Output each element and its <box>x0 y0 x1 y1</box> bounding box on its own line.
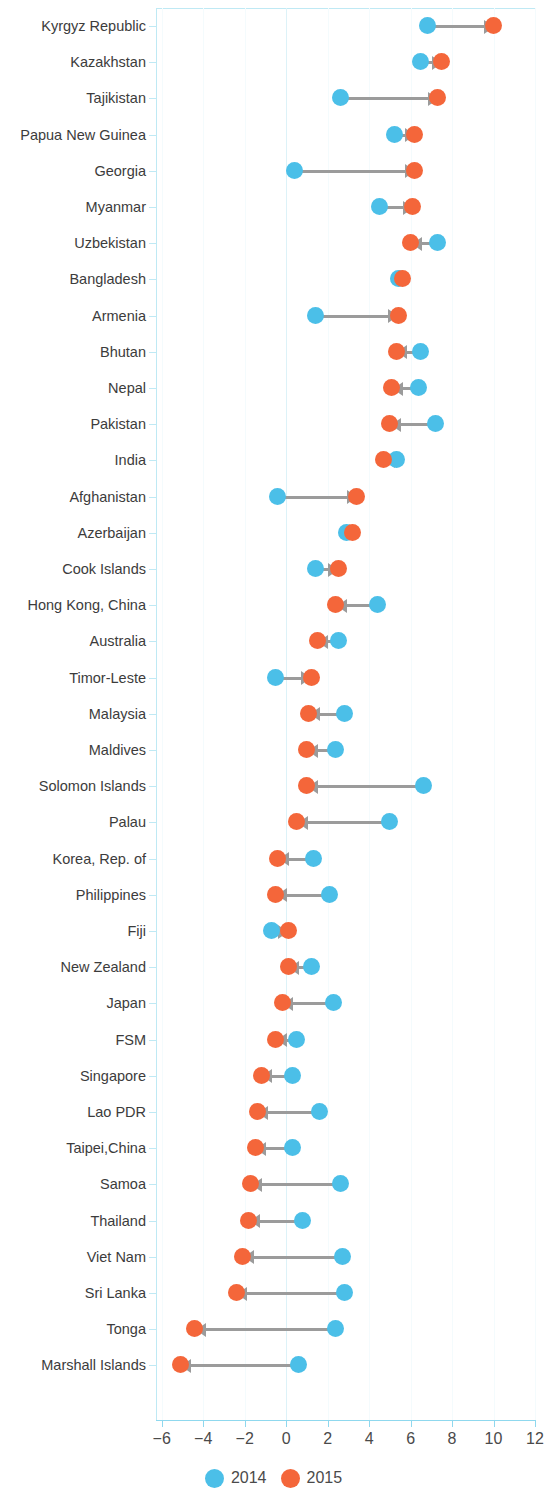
chart-row: Georgia <box>0 153 547 189</box>
data-point-2015[interactable] <box>344 524 361 541</box>
data-point-2014[interactable] <box>429 234 446 251</box>
chart-row: FSM <box>0 1022 547 1058</box>
legend-item-2015[interactable]: 2015 <box>281 1469 343 1488</box>
data-point-2014[interactable] <box>263 922 280 939</box>
category-label: Philippines <box>0 877 146 913</box>
data-point-2015[interactable] <box>429 89 446 106</box>
data-point-2014[interactable] <box>307 560 324 577</box>
change-connector <box>301 821 386 824</box>
data-point-2014[interactable] <box>307 307 324 324</box>
data-point-2014[interactable] <box>330 632 347 649</box>
data-point-2014[interactable] <box>332 89 349 106</box>
x-tick-label: −4 <box>183 1430 223 1448</box>
legend-label-2015: 2015 <box>307 1469 343 1487</box>
category-label: Papua New Guinea <box>0 117 146 153</box>
category-label: Malaysia <box>0 696 146 732</box>
data-point-2014[interactable] <box>267 669 284 686</box>
data-point-2014[interactable] <box>290 1356 307 1373</box>
category-label: Kyrgyz Republic <box>0 8 146 44</box>
change-connector <box>298 170 410 173</box>
change-connector <box>184 1364 294 1367</box>
data-point-2014[interactable] <box>381 813 398 830</box>
data-point-2015[interactable] <box>404 198 421 215</box>
chart-row: Bhutan <box>0 334 547 370</box>
data-point-2015[interactable] <box>249 1103 266 1120</box>
data-point-2014[interactable] <box>336 705 353 722</box>
data-point-2014[interactable] <box>303 958 320 975</box>
data-point-2014[interactable] <box>371 198 388 215</box>
data-point-2014[interactable] <box>284 1139 301 1156</box>
data-point-2015[interactable] <box>228 1284 245 1301</box>
dumbbell-chart: −6−4−2024681012 Kyrgyz RepublicKazakhsta… <box>0 0 547 1500</box>
data-point-2014[interactable] <box>415 777 432 794</box>
data-point-2015[interactable] <box>274 994 291 1011</box>
data-point-2015[interactable] <box>234 1248 251 1265</box>
data-point-2015[interactable] <box>247 1139 264 1156</box>
data-point-2015[interactable] <box>303 669 320 686</box>
data-point-2015[interactable] <box>390 307 407 324</box>
chart-row: Azerbaijan <box>0 515 547 551</box>
data-point-2014[interactable] <box>321 886 338 903</box>
data-point-2014[interactable] <box>412 343 429 360</box>
data-point-2014[interactable] <box>332 1175 349 1192</box>
data-point-2014[interactable] <box>286 162 303 179</box>
chart-row: Afghanistan <box>0 479 547 515</box>
data-point-2014[interactable] <box>305 850 322 867</box>
data-point-2015[interactable] <box>406 162 423 179</box>
data-point-2015[interactable] <box>267 1031 284 1048</box>
data-point-2014[interactable] <box>410 379 427 396</box>
category-label: Thailand <box>0 1203 146 1239</box>
x-tick-label: 12 <box>515 1430 547 1448</box>
chart-row: Nepal <box>0 370 547 406</box>
data-point-2014[interactable] <box>325 994 342 1011</box>
category-label: Sri Lanka <box>0 1275 146 1311</box>
data-point-2014[interactable] <box>284 1067 301 1084</box>
x-tick-label: 4 <box>349 1430 389 1448</box>
data-point-2015[interactable] <box>433 53 450 70</box>
data-point-2015[interactable] <box>330 560 347 577</box>
data-point-2015[interactable] <box>406 126 423 143</box>
category-label: Samoa <box>0 1166 146 1202</box>
data-point-2015[interactable] <box>269 850 286 867</box>
chart-row: Lao PDR <box>0 1094 547 1130</box>
category-label: Solomon Islands <box>0 768 146 804</box>
data-point-2015[interactable] <box>280 922 297 939</box>
category-label: Bhutan <box>0 334 146 370</box>
category-label: Timor-Leste <box>0 660 146 696</box>
data-point-2014[interactable] <box>327 1320 344 1337</box>
change-connector <box>319 315 394 318</box>
x-tick-label: −2 <box>225 1430 265 1448</box>
change-connector <box>240 1292 340 1295</box>
data-point-2014[interactable] <box>288 1031 305 1048</box>
chart-row: New Zealand <box>0 949 547 985</box>
data-point-2015[interactable] <box>388 343 405 360</box>
data-point-2014[interactable] <box>386 126 403 143</box>
category-label: Nepal <box>0 370 146 406</box>
data-point-2014[interactable] <box>327 741 344 758</box>
data-point-2015[interactable] <box>240 1212 257 1229</box>
data-point-2015[interactable] <box>267 886 284 903</box>
data-point-2014[interactable] <box>334 1248 351 1265</box>
data-point-2015[interactable] <box>348 488 365 505</box>
data-point-2014[interactable] <box>427 415 444 432</box>
data-point-2014[interactable] <box>412 53 429 70</box>
chart-row: Thailand <box>0 1203 547 1239</box>
change-connector <box>261 1111 315 1114</box>
data-point-2014[interactable] <box>269 488 286 505</box>
data-point-2015[interactable] <box>253 1067 270 1084</box>
data-point-2014[interactable] <box>294 1212 311 1229</box>
legend-item-2014[interactable]: 2014 <box>205 1469 267 1488</box>
category-label: Afghanistan <box>0 479 146 515</box>
data-point-2015[interactable] <box>485 17 502 34</box>
change-connector <box>199 1328 332 1331</box>
chart-row: Pakistan <box>0 406 547 442</box>
data-point-2015[interactable] <box>309 632 326 649</box>
data-point-2015[interactable] <box>280 958 297 975</box>
data-point-2014[interactable] <box>419 17 436 34</box>
category-label: Singapore <box>0 1058 146 1094</box>
data-point-2014[interactable] <box>336 1284 353 1301</box>
data-point-2014[interactable] <box>369 596 386 613</box>
data-point-2014[interactable] <box>311 1103 328 1120</box>
chart-row: Uzbekistan <box>0 225 547 261</box>
data-point-2015[interactable] <box>394 270 411 287</box>
